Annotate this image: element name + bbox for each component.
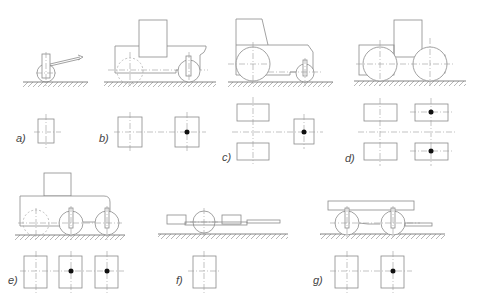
panel-d-label: d) [345,152,355,164]
panel-f-side-view [158,208,288,239]
vehicle-layout-diagram [0,0,477,303]
panel-c-side-view [228,19,333,87]
panel-a-plan-view [34,114,61,148]
panel-f-plan-view [188,251,220,293]
panel-e-plan-view [20,251,124,293]
panel-c-label: c) [222,151,231,163]
panel-d-plan-view [358,98,456,166]
panel-e-side-view [15,173,125,240]
panel-g-plan-view [330,251,412,293]
panel-c-plan-view [232,97,323,164]
panel-g-side-view [320,201,445,239]
panel-b-label: b) [99,132,109,144]
panel-a-side-view [23,52,88,87]
panel-b-side-view [104,20,216,87]
panel-d-side-view [354,20,466,86]
panel-e-label: e) [8,274,18,286]
panel-g-label: g) [313,274,323,286]
panel-a-label: a) [16,132,26,144]
panel-f-label: f) [176,274,183,286]
panel-b-plan-view [114,112,206,152]
